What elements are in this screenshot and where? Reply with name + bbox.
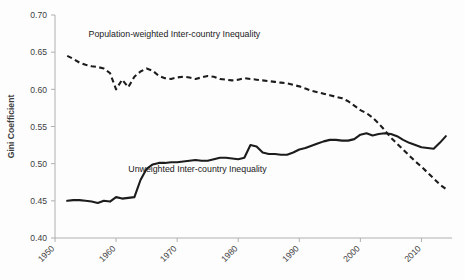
x-tick-label: 1950 <box>36 243 57 264</box>
unweighted-label: Unweighted Inter-country Inequality <box>128 164 267 174</box>
series-annotations: Population-weighted Inter-country Inequa… <box>89 29 268 174</box>
y-axis-ticks: 0.400.450.500.550.600.650.70 <box>30 10 55 243</box>
x-tick-label: 1980 <box>219 243 240 264</box>
y-tick-label: 0.40 <box>30 233 47 243</box>
x-tick-label: 1970 <box>158 243 179 264</box>
y-tick-label: 0.50 <box>30 159 47 169</box>
y-tick-label: 0.70 <box>30 10 47 20</box>
x-tick-label: 1960 <box>97 243 118 264</box>
x-tick-label: 1990 <box>280 243 301 264</box>
y-tick-label: 0.55 <box>30 122 47 132</box>
x-tick-label: 2000 <box>341 243 362 264</box>
x-axis-ticks: 1950196019701980199020002010 <box>36 238 423 264</box>
y-tick-label: 0.60 <box>30 85 47 95</box>
chart-container: 0.400.450.500.550.600.650.70 19501960197… <box>0 0 465 280</box>
y-axis-title: Gini Coefficient <box>6 95 16 159</box>
x-tick-label: 2010 <box>402 243 423 264</box>
population-weighted-label: Population-weighted Inter-country Inequa… <box>89 29 261 39</box>
axes-group <box>55 15 452 238</box>
data-series-group <box>67 56 446 203</box>
gini-coefficient-line-chart: 0.400.450.500.550.600.650.70 19501960197… <box>0 0 465 280</box>
y-tick-label: 0.65 <box>30 47 47 57</box>
y-tick-label: 0.45 <box>30 196 47 206</box>
